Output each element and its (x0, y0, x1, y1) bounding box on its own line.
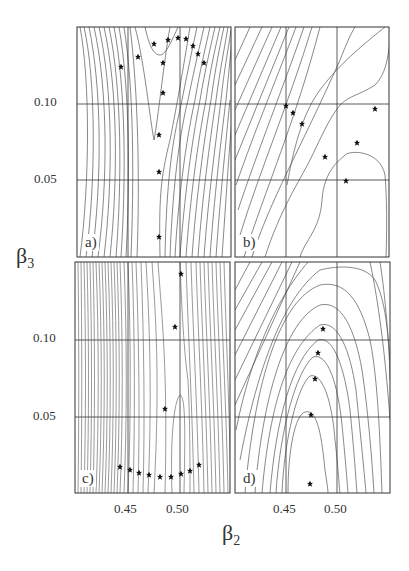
markers-b (283, 103, 378, 184)
figure-canvas (0, 0, 409, 571)
panel-label-d: d) (241, 470, 258, 487)
x-axis-title: β2 (222, 520, 240, 549)
contours-a (80, 27, 232, 257)
panel-a (77, 27, 232, 257)
y-tick-bottom-010: 0.10 (33, 330, 56, 346)
panel-b (235, 27, 390, 257)
gridlines-b (235, 27, 389, 257)
y-tick-top-005: 0.05 (34, 171, 57, 187)
panel-d (235, 262, 390, 493)
panel-label-c: c) (80, 470, 96, 487)
x-tick-d-045: 0.45 (273, 501, 296, 517)
x-tick-d-050: 0.50 (324, 501, 347, 517)
panel-label-a: a) (83, 234, 99, 251)
y-tick-bottom-005: 0.05 (33, 408, 56, 424)
panel-b-frame (235, 27, 389, 257)
panel-c (75, 262, 231, 493)
markers-d (307, 326, 326, 487)
contours-b (235, 27, 390, 257)
x-tick-c-050: 0.50 (166, 501, 189, 517)
panel-label-b: b) (241, 234, 258, 251)
x-tick-c-045: 0.45 (114, 501, 137, 517)
y-axis-title: β3 (16, 243, 34, 272)
contours-c (78, 262, 231, 493)
contours-d (235, 262, 390, 493)
y-tick-top-010: 0.10 (34, 94, 57, 110)
